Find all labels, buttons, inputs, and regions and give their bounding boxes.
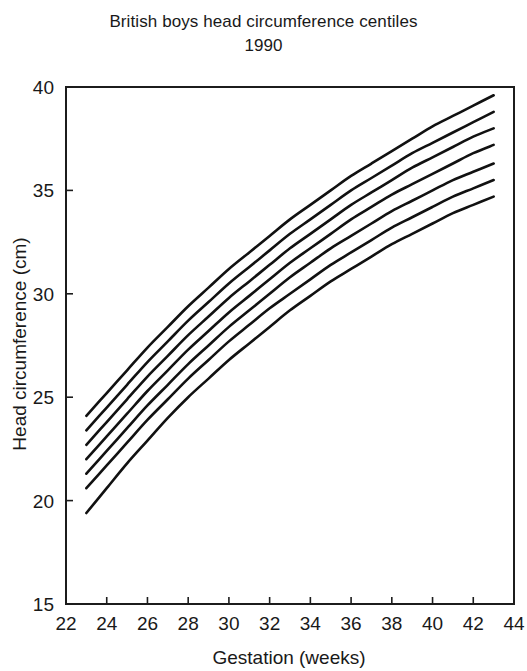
y-tick-label: 30: [33, 284, 54, 305]
x-tick-label: 44: [503, 613, 525, 634]
centile-curve: [86, 128, 493, 444]
x-tick-label: 40: [422, 613, 443, 634]
y-axis-tick-labels: 152025303540: [33, 77, 54, 615]
x-tick-label: 32: [259, 613, 280, 634]
chart-plot-area: 222426283032343638404244 152025303540 Ge…: [0, 0, 527, 671]
x-tick-label: 38: [381, 613, 402, 634]
centile-curve: [86, 164, 493, 474]
x-axis-ticks: [66, 597, 514, 604]
x-axis-tick-labels: 222426283032343638404244: [55, 613, 525, 634]
x-tick-label: 34: [300, 613, 322, 634]
x-tick-label: 26: [137, 613, 158, 634]
y-tick-label: 20: [33, 491, 54, 512]
x-tick-label: 30: [218, 613, 239, 634]
centile-curve: [86, 197, 493, 513]
y-axis-ticks: [66, 87, 73, 604]
centile-curve: [86, 145, 493, 459]
y-tick-label: 25: [33, 387, 54, 408]
x-tick-label: 24: [96, 613, 118, 634]
y-tick-label: 15: [33, 594, 54, 615]
x-tick-label: 42: [463, 613, 484, 634]
axis-frame: [66, 87, 514, 604]
x-axis-title: Gestation (weeks): [212, 647, 365, 668]
y-tick-label: 40: [33, 77, 54, 98]
centile-curves: [86, 95, 493, 513]
y-axis-title: Head circumference (cm): [9, 237, 30, 450]
chart-container: British boys head circumference centiles…: [0, 0, 527, 671]
y-tick-label: 35: [33, 180, 54, 201]
centile-curve: [86, 112, 493, 430]
x-tick-label: 22: [55, 613, 76, 634]
x-tick-label: 28: [178, 613, 199, 634]
x-tick-label: 36: [341, 613, 362, 634]
axes: [66, 87, 514, 604]
